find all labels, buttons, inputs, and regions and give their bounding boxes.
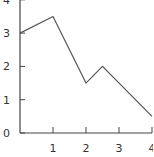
y-tick-label: 3 xyxy=(3,27,10,40)
x-tick-label: 4 xyxy=(149,142,154,155)
y-tick-label: 1 xyxy=(3,94,10,107)
x-tick-label: 3 xyxy=(116,142,123,155)
y-tick-label: 4 xyxy=(3,0,10,7)
x-axis-ticks: 1234 xyxy=(50,127,154,155)
y-tick-label: 0 xyxy=(3,127,10,140)
data-line xyxy=(20,17,152,117)
y-axis-ticks: 01234 xyxy=(3,0,25,140)
x-tick-label: 2 xyxy=(83,142,90,155)
line-chart: 01234 1234 xyxy=(0,0,153,157)
axes xyxy=(20,0,152,133)
x-tick-label: 1 xyxy=(50,142,57,155)
y-tick-label: 2 xyxy=(3,60,10,73)
